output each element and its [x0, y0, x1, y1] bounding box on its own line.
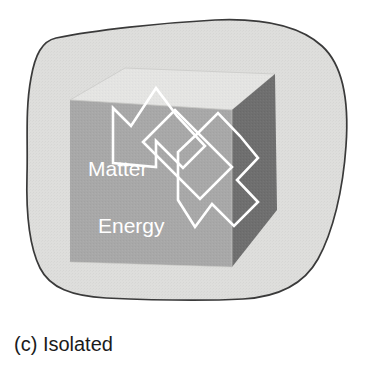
figure-caption: (c) Isolated	[14, 333, 113, 355]
figure-container: Matter Energy (c) Isolated	[0, 0, 365, 371]
matter-label: Matter	[88, 157, 148, 180]
isolated-system-figure: Matter Energy (c) Isolated	[0, 0, 365, 371]
energy-label: Energy	[98, 214, 165, 237]
